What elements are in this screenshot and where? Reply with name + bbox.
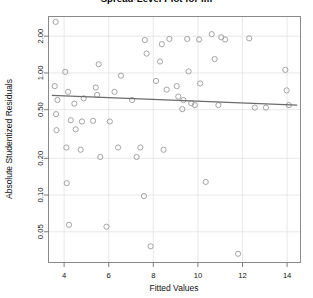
data-layer (52, 19, 291, 256)
x-tick-label: 14 (283, 271, 291, 280)
data-point (107, 119, 112, 124)
data-point (104, 224, 109, 229)
data-point (284, 88, 289, 93)
data-point (176, 94, 181, 99)
data-point (144, 51, 149, 56)
x-tick-label: 12 (238, 271, 246, 280)
data-point (216, 103, 221, 108)
data-point (63, 69, 68, 74)
data-point (138, 145, 143, 150)
data-point (53, 112, 58, 117)
data-point (64, 145, 69, 150)
data-point (112, 89, 117, 94)
data-point (96, 62, 101, 67)
y-axis-title: Absolute Studentized Residuals (4, 79, 14, 199)
data-point (164, 87, 169, 92)
data-point (118, 73, 123, 78)
trend-line (52, 95, 297, 105)
x-tick-label: 8 (151, 271, 155, 280)
data-point (54, 128, 59, 133)
data-point (52, 84, 57, 89)
data-point (79, 119, 84, 124)
data-point (73, 127, 78, 132)
trendline-layer (52, 95, 297, 105)
spread-level-plot: Spread-Level Plot for lm 4681012140.050.… (0, 0, 313, 298)
data-point (185, 36, 190, 41)
data-point (91, 118, 96, 123)
y-tick-label: 1.00 (36, 66, 45, 81)
y-tick-label: 0.50 (36, 102, 45, 117)
axis-title-layer: Fitted Values Absolute Studentized Resid… (4, 79, 198, 293)
data-point (68, 118, 73, 123)
grid-layer (49, 17, 301, 263)
data-point (235, 251, 240, 256)
data-point (153, 78, 158, 83)
data-point (141, 193, 146, 198)
data-point (180, 107, 185, 112)
data-point (98, 154, 103, 159)
data-point (55, 97, 60, 102)
data-point (148, 244, 153, 249)
data-point (66, 222, 71, 227)
data-point (212, 56, 217, 61)
x-tick-label: 6 (107, 271, 111, 280)
data-point (134, 154, 139, 159)
data-point (203, 179, 208, 184)
y-tick-label: 0.20 (36, 151, 45, 166)
plot-canvas: 4681012140.050.100.200.501.002.00 Fitted… (0, 0, 313, 298)
x-axis-title: Fitted Values (150, 283, 199, 293)
y-tick-label: 0.10 (36, 188, 45, 203)
x-tick-label: 10 (194, 271, 202, 280)
x-tick-label: 4 (62, 271, 66, 280)
data-point (93, 85, 98, 90)
plot-frame (49, 17, 301, 263)
data-point (78, 147, 83, 152)
y-tick-label: 0.05 (36, 224, 45, 239)
data-point (157, 59, 162, 64)
data-point (198, 81, 203, 86)
data-point (167, 36, 172, 41)
data-point (53, 19, 58, 24)
data-point (115, 145, 120, 150)
data-point (161, 147, 166, 152)
ticklabel-layer: 4681012140.050.100.200.501.002.00 (36, 29, 291, 280)
data-point (142, 37, 147, 42)
frame-layer (49, 17, 301, 263)
data-point (174, 84, 179, 89)
data-point (159, 42, 164, 47)
data-point (64, 181, 69, 186)
y-tick-label: 2.00 (36, 29, 45, 44)
data-point (196, 37, 201, 42)
data-point (66, 89, 71, 94)
data-point (72, 101, 77, 106)
